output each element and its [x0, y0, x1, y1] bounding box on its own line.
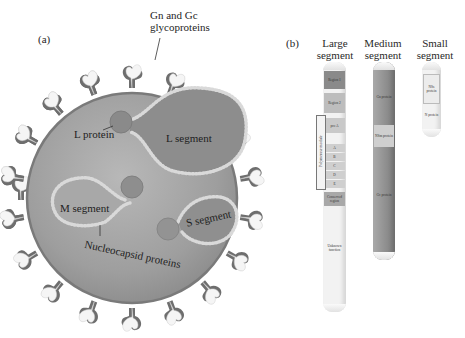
nss-protein: NSs protein — [423, 74, 440, 104]
region-2: Region 2 — [324, 93, 345, 113]
pro-a: pro A — [324, 118, 345, 133]
motif-c: C — [324, 162, 345, 170]
unknown-function: Unknown function — [324, 242, 345, 254]
conserved-region: Conserved region — [324, 192, 345, 206]
polymerase-module-label: Polymerase module — [319, 117, 324, 185]
medium-segment-tube: Gn protein NSm protein Gc protein — [373, 62, 395, 260]
motif-b: B — [324, 153, 345, 161]
small-segment-title: Small segment — [410, 37, 460, 61]
motif-d: D — [324, 171, 345, 179]
large-segment-title: Large segment — [310, 37, 360, 61]
small-segment-tube: NSs protein N protein — [422, 62, 441, 137]
s-protein-blob — [157, 218, 179, 240]
n-protein: N protein — [423, 110, 440, 120]
glycoprotein-label-line2: glycoproteins — [150, 21, 210, 33]
l-protein-label: L protein — [74, 128, 114, 140]
polymerase-module-bracket: Polymerase module — [316, 115, 326, 190]
gn-protein: Gn protein — [374, 82, 394, 112]
glycoprotein-label-line1: Gn and Gc — [150, 9, 198, 21]
region-1: Region 1 — [324, 71, 345, 89]
nsm-protein: NSm protein — [374, 125, 394, 147]
m-segment-label: M segment — [60, 202, 109, 214]
motif-e: E — [324, 180, 345, 188]
virion-illustration — [0, 0, 280, 338]
m-protein-blob — [121, 176, 143, 198]
l-segment-label: L segment — [166, 132, 212, 144]
panel-b-label: (b) — [286, 37, 299, 49]
motif-a: A — [324, 144, 345, 152]
gc-protein: Gc protein — [374, 180, 394, 210]
medium-segment-title: Medium segment — [358, 37, 408, 61]
large-segment-tube: Region 1 Region 2 pro A A B C D E Conser… — [323, 62, 346, 312]
